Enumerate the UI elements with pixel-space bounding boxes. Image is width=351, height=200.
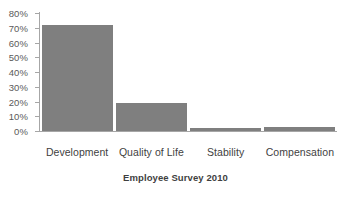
x-axis-line (39, 131, 337, 132)
bar (116, 103, 187, 131)
x-axis-category-labels: DevelopmentQuality of LifeStabilityCompe… (40, 146, 337, 162)
y-axis-tick-label: 50% (9, 52, 28, 63)
bar (42, 25, 113, 131)
x-axis-category-label: Stability (189, 146, 263, 158)
x-axis-category-label: Development (40, 146, 114, 158)
y-axis-tick-label: 60% (9, 37, 28, 48)
plot-area: 0%10%20%30%40%50%60%70%80% (40, 13, 337, 131)
y-axis-tick-label: 40% (9, 67, 28, 78)
y-axis-tick-label: 70% (9, 22, 28, 33)
x-axis-category-label: Compensation (263, 146, 337, 158)
y-axis-tick-label: 10% (9, 111, 28, 122)
x-axis-category-label: Quality of Life (114, 146, 188, 158)
bar-series (40, 13, 337, 131)
y-axis-tick: 0% (35, 131, 40, 132)
bar (190, 128, 261, 131)
bar-chart: 0%10%20%30%40%50%60%70%80% DevelopmentQu… (0, 0, 351, 200)
bar (264, 127, 335, 131)
y-axis-tick-label: 80% (9, 8, 28, 19)
y-axis-tick-label: 20% (9, 96, 28, 107)
y-axis-tick-label: 30% (9, 81, 28, 92)
y-axis-tick-label: 0% (14, 126, 28, 137)
axis-title: Employee Survey 2010 (0, 172, 351, 183)
